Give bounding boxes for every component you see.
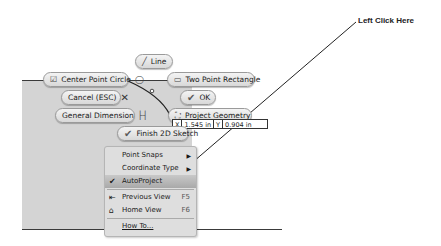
ok-button[interactable]: ✔ OK bbox=[180, 90, 216, 105]
context-menu: Point Snaps ▶ Coordinate Type ▶ ✔ AutoPr… bbox=[104, 146, 197, 237]
general-dimension-button[interactable]: General Dimension ├┤ bbox=[55, 108, 135, 123]
arc-midpoint bbox=[150, 89, 154, 93]
two-point-rectangle-button[interactable]: ▭ Two Point Rectangle bbox=[167, 72, 255, 87]
menu-item-autoproject[interactable]: ✔ AutoProject bbox=[105, 175, 196, 188]
close-icon: ✕ bbox=[120, 90, 128, 105]
line-icon: ╱ bbox=[142, 54, 147, 69]
circle-icon: ◯ bbox=[135, 72, 144, 87]
callout-label: Left Click Here bbox=[358, 16, 414, 25]
menu-item-point-snaps[interactable]: Point Snaps ▶ bbox=[105, 149, 196, 162]
menu-item-coordinate-type[interactable]: Coordinate Type ▶ bbox=[105, 162, 196, 175]
cancel-button[interactable]: Cancel (ESC) ✕ bbox=[61, 90, 121, 105]
menu-item-previous-view[interactable]: ⇤ Previous View F5 bbox=[105, 191, 196, 204]
submenu-arrow-icon: ▶ bbox=[186, 149, 191, 162]
coord-y-field[interactable]: 0.904 in bbox=[223, 120, 254, 128]
line-button[interactable]: ╱ Line bbox=[135, 54, 173, 69]
checkmark-icon: ✔ bbox=[109, 175, 116, 188]
menu-separator bbox=[107, 218, 194, 219]
checkmark-icon: ✔ bbox=[124, 126, 132, 141]
home-icon: ⌂ bbox=[109, 204, 114, 217]
submenu-arrow-icon: ▶ bbox=[186, 162, 191, 175]
menu-item-how-to[interactable]: How To... bbox=[105, 220, 196, 233]
checkbox-icon: ☑ bbox=[50, 72, 57, 87]
menu-item-home-view[interactable]: ⌂ Home View F6 bbox=[105, 204, 196, 217]
rectangle-icon: ▭ bbox=[174, 72, 182, 87]
finish-2d-sketch-button[interactable]: ✔ Finish 2D Sketch bbox=[117, 126, 189, 141]
coord-y-label: Y bbox=[214, 120, 223, 128]
previous-view-icon: ⇤ bbox=[109, 191, 116, 204]
center-point-circle-button[interactable]: ☑ Center Point Circle ◯ bbox=[43, 72, 129, 87]
checkmark-icon: ✔ bbox=[187, 90, 195, 105]
dimension-icon: ├┤ bbox=[138, 108, 148, 123]
menu-separator bbox=[107, 189, 194, 190]
